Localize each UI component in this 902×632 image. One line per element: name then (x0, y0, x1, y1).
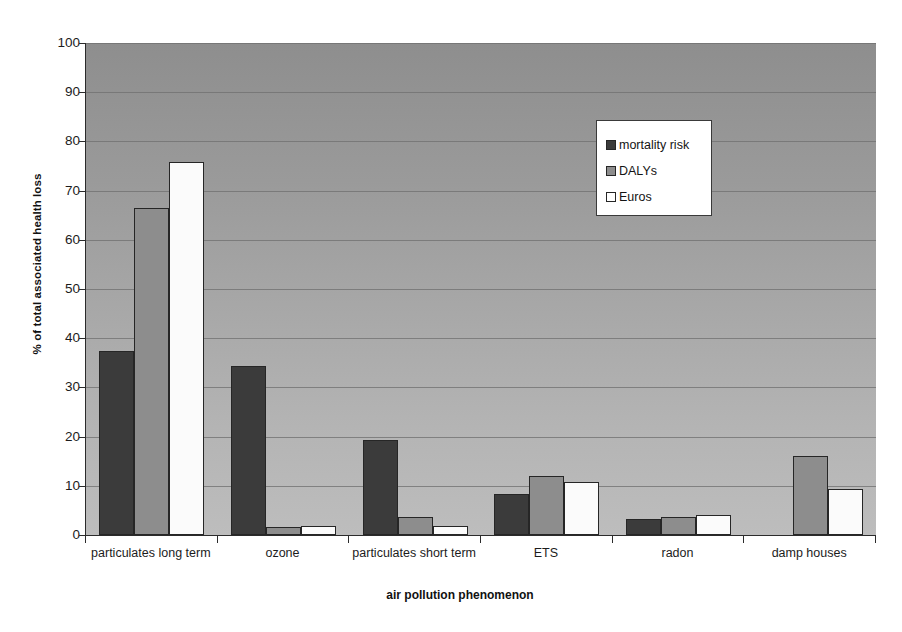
y-axis-tick-mark (79, 141, 86, 142)
bar-chart-figure: 0102030405060708090100 % of total associ… (0, 0, 902, 632)
bar (828, 489, 863, 535)
y-axis-tick-label: 70 (46, 184, 80, 198)
gridline (86, 191, 876, 192)
y-axis-tick-mark (79, 387, 86, 388)
y-axis-tick-mark (79, 43, 86, 44)
y-axis-tick-label: 80 (46, 134, 80, 148)
x-axis-tick-mark (85, 535, 86, 543)
y-axis-tick-mark (79, 92, 86, 93)
x-axis-category-label: particulates long term (75, 546, 227, 560)
x-axis-category-label: radon (602, 546, 754, 560)
bar (626, 519, 661, 535)
plot-area (85, 43, 876, 536)
y-axis-tick-label: 0 (46, 528, 80, 542)
legend-item: mortality risk (606, 132, 711, 158)
bar (363, 440, 398, 535)
x-axis-tick-mark (743, 535, 744, 543)
white-swatch (606, 192, 616, 202)
legend-item: Euros (606, 184, 711, 210)
y-axis-tick-mark (79, 289, 86, 290)
x-axis-category-label: damp houses (733, 546, 885, 560)
x-axis-tick-mark (217, 535, 218, 543)
bar (433, 526, 468, 535)
gridline (86, 92, 876, 93)
legend-item-label: Euros (619, 190, 652, 204)
x-axis-category-label: particulates short term (338, 546, 490, 560)
bar (398, 517, 433, 535)
y-axis-tick-label: 50 (46, 282, 80, 296)
bar (231, 366, 266, 535)
bar (661, 517, 696, 535)
bar (301, 526, 336, 535)
gridline (86, 486, 876, 487)
y-axis-tick-mark (79, 338, 86, 339)
y-axis-ticks: 0102030405060708090100 (40, 0, 80, 632)
x-axis-title-text: air pollution phenomenon (386, 588, 533, 602)
bar (266, 527, 301, 535)
y-axis-tick-mark (79, 240, 86, 241)
gridline (86, 43, 876, 44)
legend-item: DALYs (606, 158, 711, 184)
dark-gray-swatch (606, 140, 616, 150)
bar (99, 351, 134, 535)
bar (134, 208, 169, 535)
y-axis-title: % of total associated health loss (31, 139, 43, 389)
x-axis-title: air pollution phenomenon (0, 588, 902, 602)
y-axis-tick-label: 10 (46, 479, 80, 493)
bar (169, 162, 204, 535)
x-axis-category-label: ozone (207, 546, 359, 560)
gridline (86, 437, 876, 438)
chart-legend: mortality riskDALYsEuros (596, 120, 712, 216)
x-axis-tick-mark (348, 535, 349, 543)
y-axis-tick-label: 60 (46, 233, 80, 247)
y-axis-tick-label: 20 (46, 430, 80, 444)
bar (494, 494, 529, 535)
y-axis-tick-mark (79, 191, 86, 192)
y-axis-tick-label: 100 (46, 36, 80, 50)
x-axis-tick-mark (480, 535, 481, 543)
bar (793, 456, 828, 535)
medium-gray-swatch (606, 166, 616, 176)
y-axis-tick-label: 40 (46, 331, 80, 345)
x-axis-tick-mark (612, 535, 613, 543)
bar (529, 476, 564, 535)
legend-item-label: DALYs (619, 164, 657, 178)
gridline (86, 289, 876, 290)
gridline (86, 387, 876, 388)
gridline (86, 240, 876, 241)
y-axis-tick-mark (79, 486, 86, 487)
gridline (86, 141, 876, 142)
x-axis-tick-mark (875, 535, 876, 543)
y-axis-tick-mark (79, 437, 86, 438)
legend-item-label: mortality risk (619, 138, 689, 152)
gridline (86, 338, 876, 339)
bar (564, 482, 599, 535)
y-axis-tick-label: 90 (46, 85, 80, 99)
x-axis-category-label: ETS (470, 546, 622, 560)
y-axis-tick-label: 30 (46, 380, 80, 394)
bar (696, 515, 731, 535)
